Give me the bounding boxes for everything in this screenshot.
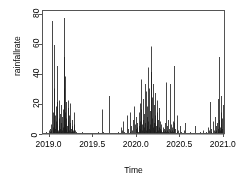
- plot-canvas: [0, 0, 242, 183]
- x-tick-label: 2020.5: [166, 140, 192, 149]
- y-tick-label: 40: [32, 68, 41, 77]
- x-tick-label: 2019.0: [36, 140, 62, 149]
- y-tick-label: 60: [32, 38, 41, 47]
- y-tick-label: 80: [32, 8, 41, 17]
- rainfall-time-series-plot: rainfallrate Time 2019.02019.52020.02020…: [0, 0, 242, 183]
- x-axis-label: Time: [124, 166, 143, 175]
- y-tick-label: 20: [32, 98, 41, 107]
- y-axis-label: rainfallrate: [13, 37, 22, 77]
- x-tick-label: 2019.5: [79, 140, 105, 149]
- x-tick-label: 2021.0: [210, 140, 236, 149]
- y-tick-label: 0: [30, 133, 39, 138]
- x-tick-label: 2020.0: [123, 140, 149, 149]
